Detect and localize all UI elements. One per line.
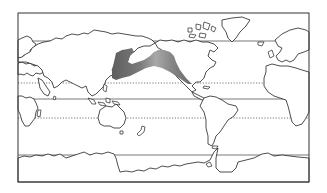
- madagascar: [37, 110, 41, 117]
- philippines: [103, 84, 107, 92]
- world-map: [0, 0, 327, 193]
- sri-lanka: [53, 96, 56, 100]
- tasmania: [120, 131, 123, 134]
